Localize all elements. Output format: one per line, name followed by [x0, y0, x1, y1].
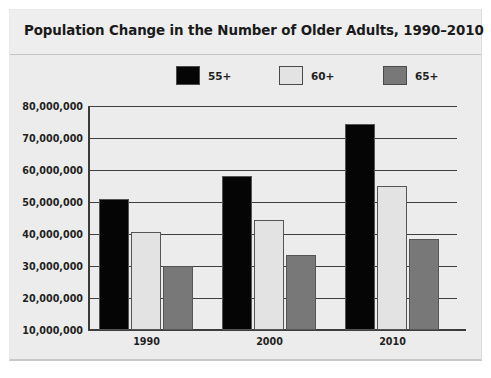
- legend-entry: 60+: [279, 66, 334, 85]
- y-axis-tick-label: 30,000,000: [22, 261, 83, 272]
- y-axis-tick-label: 50,000,000: [22, 197, 83, 208]
- page-title: Population Change in the Number of Older…: [24, 23, 484, 38]
- y-axis-tick-labels: 10,000,00020,000,00030,000,00040,000,000…: [10, 106, 83, 330]
- y-axis-tick-label: 40,000,000: [22, 229, 83, 240]
- gridline: [88, 106, 457, 107]
- legend-entry: 65+: [383, 66, 438, 85]
- gridline: [88, 138, 457, 139]
- chart-figure: Population Change in the Number of Older…: [0, 0, 491, 378]
- legend-label: 55+: [208, 70, 231, 82]
- bar: [254, 220, 284, 330]
- x-axis-tick-label: 1990: [133, 336, 160, 347]
- bars-and-gridlines: [88, 106, 457, 330]
- legend-swatch-icon: [176, 66, 200, 85]
- bar: [409, 239, 439, 330]
- bar: [99, 199, 129, 330]
- y-axis-tick-label: 20,000,000: [22, 293, 83, 304]
- bar: [163, 266, 193, 330]
- bar: [345, 124, 375, 330]
- bar: [222, 176, 252, 330]
- bar: [377, 186, 407, 330]
- gridline: [88, 330, 457, 331]
- y-axis-tick-label: 80,000,000: [22, 101, 83, 112]
- legend-label: 65+: [415, 70, 438, 82]
- y-axis-tick-label: 10,000,000: [22, 325, 83, 336]
- x-axis-tick-label: 2010: [379, 336, 406, 347]
- y-axis-tick-label: 60,000,000: [22, 165, 83, 176]
- legend-label: 60+: [311, 70, 334, 82]
- chart-title-bar: Population Change in the Number of Older…: [10, 10, 481, 55]
- x-axis-tick-label: 2000: [256, 336, 283, 347]
- legend-swatch-icon: [279, 66, 303, 85]
- plot-area: 10,000,00020,000,00030,000,00040,000,000…: [10, 98, 483, 360]
- chart-legend: 55+60+65+: [10, 58, 481, 98]
- bar: [131, 232, 161, 330]
- legend-entry: 55+: [176, 66, 231, 85]
- bar: [286, 255, 316, 330]
- legend-swatch-icon: [383, 66, 407, 85]
- chart-card: Population Change in the Number of Older…: [9, 9, 482, 361]
- gridline: [88, 170, 457, 171]
- x-axis-tick-labels: 199020002010: [88, 336, 457, 356]
- y-axis-tick-label: 70,000,000: [22, 133, 83, 144]
